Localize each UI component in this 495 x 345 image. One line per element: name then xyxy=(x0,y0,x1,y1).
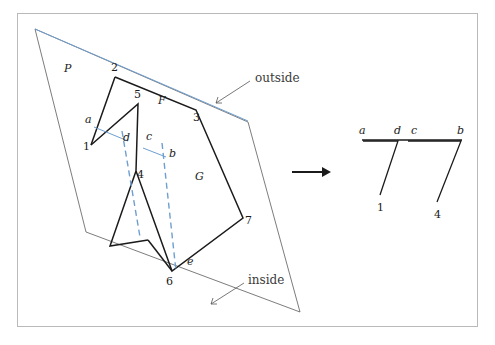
result-label-d: d xyxy=(394,124,401,137)
vertex-label-1: 1 xyxy=(83,140,90,153)
triangle-a-d-1 xyxy=(363,141,398,195)
plane-label: P xyxy=(63,62,72,75)
cut-segment-c-b xyxy=(143,148,166,157)
cut-line-top xyxy=(35,29,248,121)
figure-root: P F G 2 5 3 1 4 7 6 a d c b e xyxy=(0,0,495,345)
maps-to-arrow-head xyxy=(322,167,331,177)
vertex-label-4: 4 xyxy=(137,168,144,181)
maps-to-arrow xyxy=(292,167,331,177)
face-label-G: G xyxy=(195,170,204,183)
cut-point-label-b: b xyxy=(169,147,176,160)
cut-point-label-e: e xyxy=(187,255,194,268)
result-triangles: a d c b 1 4 xyxy=(359,124,464,221)
inside-label: inside xyxy=(248,273,284,287)
outside-leader xyxy=(216,81,250,103)
outside-annotation: outside xyxy=(216,71,300,103)
inside-leader xyxy=(211,283,244,304)
result-label-c: c xyxy=(411,124,417,137)
polygon-main-outline xyxy=(91,77,243,271)
vertex-label-3: 3 xyxy=(193,111,200,124)
vertex-label-5: 5 xyxy=(134,88,141,101)
cut-point-label-c: c xyxy=(146,130,152,143)
cut-dash-right xyxy=(162,143,176,271)
vertex-label-7: 7 xyxy=(245,214,252,227)
result-apex-label-4: 4 xyxy=(434,208,441,221)
result-label-a: a xyxy=(359,124,366,137)
polygon-tail-edge xyxy=(148,240,172,271)
outside-label: outside xyxy=(255,71,300,85)
cut-point-label-d: d xyxy=(123,131,130,144)
vertex-label-2: 2 xyxy=(111,61,118,74)
figure-canvas: P F G 2 5 3 1 4 7 6 a d c b e xyxy=(0,0,495,345)
face-label-F: F xyxy=(157,94,166,107)
vertex-label-6: 6 xyxy=(166,275,173,288)
polygon-tail-outline xyxy=(110,171,148,246)
result-label-b: b xyxy=(457,124,464,137)
result-apex-label-1: 1 xyxy=(377,201,384,214)
inside-annotation: inside xyxy=(211,273,284,304)
cut-point-label-a: a xyxy=(85,113,92,126)
triangle-c-b-4 xyxy=(408,141,461,202)
